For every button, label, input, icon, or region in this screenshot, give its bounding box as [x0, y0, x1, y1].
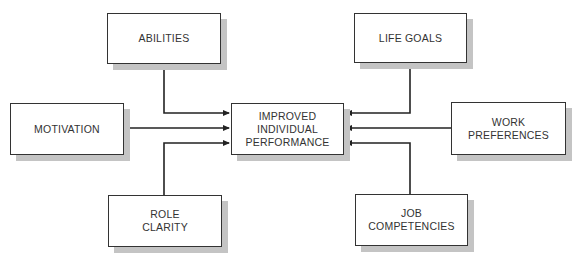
- arrow-job-competencies: [346, 143, 410, 194]
- label-line: COMPETENCIES: [368, 220, 454, 233]
- label-line: CLARITY: [142, 221, 188, 234]
- box-motivation: MOTIVATION: [10, 103, 124, 155]
- label-line: LIFE GOALS: [379, 32, 442, 45]
- label-line: JOB: [401, 207, 422, 220]
- arrow-abilities: [164, 64, 229, 113]
- label-line: WORK: [492, 116, 525, 129]
- box-work-preferences: WORK PREFERENCES: [451, 102, 566, 155]
- label-line: ABILITIES: [139, 32, 190, 45]
- box-life-goals: LIFE GOALS: [354, 13, 467, 63]
- arrow-life-goals: [346, 63, 410, 113]
- label-line: MOTIVATION: [34, 123, 100, 136]
- arrow-role-clarity: [164, 143, 229, 195]
- box-job-competencies: JOB COMPETENCIES: [355, 194, 468, 246]
- box-role-clarity: ROLE CLARITY: [108, 195, 222, 247]
- label-line: INDIVIDUAL: [257, 123, 318, 136]
- label-line: IMPROVED: [259, 110, 317, 123]
- label-line: PERFORMANCE: [246, 136, 330, 149]
- box-abilities: ABILITIES: [107, 13, 221, 64]
- box-improved-performance: IMPROVED INDIVIDUAL PERFORMANCE: [231, 103, 344, 155]
- label-line: PREFERENCES: [468, 129, 549, 142]
- label-line: ROLE: [150, 208, 179, 221]
